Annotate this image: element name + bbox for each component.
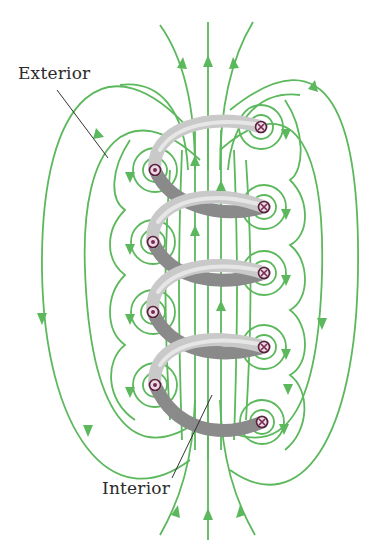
arrow-up-icon xyxy=(203,508,213,520)
arrow-up-icon xyxy=(190,155,200,166)
exterior-label: Exterior xyxy=(18,63,90,83)
dot-marker-icon xyxy=(150,380,161,391)
cross-marker-icon xyxy=(259,342,270,353)
arrow-up-icon xyxy=(229,57,239,69)
cross-marker-icon xyxy=(259,202,270,213)
arrow-up-icon xyxy=(203,55,213,67)
dot-marker-icon xyxy=(148,237,159,248)
arrow-down-icon xyxy=(308,80,318,92)
dot-marker-icon xyxy=(150,165,161,176)
cross-marker-icon xyxy=(256,122,267,133)
arrow-down-icon xyxy=(83,425,93,437)
cross-marker-icon xyxy=(259,268,270,279)
cross-marker-icon xyxy=(257,417,268,428)
arrow-up-icon xyxy=(216,300,226,311)
arrow-up-icon xyxy=(190,225,200,236)
arrow-down-icon xyxy=(283,384,293,395)
arrow-down-icon xyxy=(93,128,104,139)
interior-label: Interior xyxy=(102,478,170,498)
dot-marker-icon xyxy=(148,307,159,318)
top-field-lines xyxy=(120,22,300,170)
arrow-up-icon xyxy=(216,180,226,191)
